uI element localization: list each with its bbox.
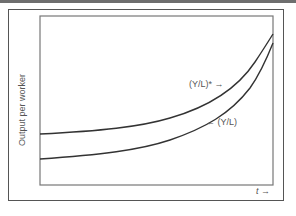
- right-arrow-icon: →: [215, 79, 224, 89]
- axes-frame: [40, 16, 273, 185]
- left-arrow-icon: ←: [206, 117, 215, 127]
- x-axis-label: t →: [256, 186, 270, 196]
- lower-curve-label: ← (Y/L): [206, 117, 237, 127]
- upper-curve-label: (Y/L)* →: [189, 79, 224, 89]
- plot-area: [0, 0, 296, 216]
- upper-curve: [40, 34, 273, 134]
- right-arrow-icon: →: [261, 186, 270, 196]
- y-axis-label: Output per worker: [12, 60, 32, 160]
- lower-curve: [40, 43, 273, 159]
